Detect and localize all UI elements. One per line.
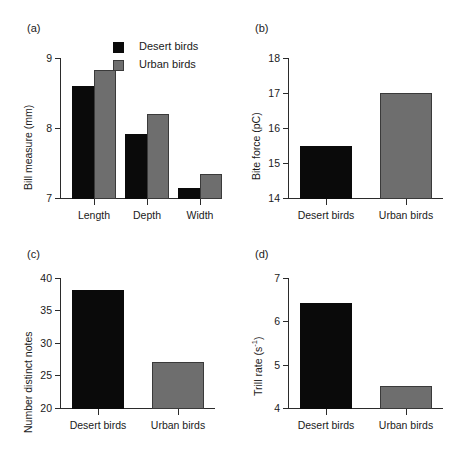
panel-c: (c) Number distinct notes 40 35 30 25 20… [0, 236, 227, 472]
panel-b: (b) Bite force (pC) 18 17 16 15 14 Deser… [228, 0, 455, 236]
panel-c-xtick-urban [178, 409, 179, 415]
legend-swatch-desert-icon [113, 42, 124, 53]
panel-b-bar-desert [300, 146, 352, 199]
panel-a-yticklabel-8: 8 [28, 122, 52, 134]
panel-b-y-axis [288, 58, 289, 199]
panel-c-bar-urban [152, 362, 204, 409]
panel-c-letter: (c) [27, 248, 40, 260]
panel-d-xticklabel-urban: Urban birds [366, 419, 446, 431]
panel-a-y-axis [60, 58, 61, 199]
panel-b-yticklabel-17: 17 [250, 87, 280, 99]
panel-d-yticklabel-6: 6 [256, 315, 280, 327]
panel-d-bar-urban [380, 386, 432, 409]
panel-c-ytick-20 [55, 408, 60, 409]
panel-c-yticklabel-40: 40 [22, 272, 52, 284]
panel-b-yticklabel-15: 15 [250, 157, 280, 169]
panel-b-ytick-16 [283, 128, 288, 129]
panel-c-xtick-desert [98, 409, 99, 415]
panel-b-yticklabel-14: 14 [250, 192, 280, 204]
panel-d-yticklabel-4: 4 [256, 402, 280, 414]
panel-b-ytick-17 [283, 93, 288, 94]
panel-a-bar-depth-urban [147, 114, 169, 199]
panel-d-xticklabel-desert: Desert birds [286, 419, 366, 431]
panel-d-ylabel-main: Trill rate (s [252, 347, 264, 396]
panel-c-ytick-30 [55, 343, 60, 344]
panel-a-xtick-length [94, 199, 95, 205]
panel-b-ytick-15 [283, 163, 288, 164]
panel-d-ytick-6 [283, 321, 288, 322]
panel-d-xtick-desert [326, 409, 327, 415]
panel-a-xticklabel-depth: Depth [117, 209, 177, 221]
panel-a-bar-depth-desert [125, 134, 147, 199]
figure-multipanel-bar-charts: (a) Bill measure (mm) 9 8 7 Length Depth… [0, 0, 455, 472]
panel-a-yticklabel-9: 9 [28, 52, 52, 64]
panel-b-xtick-desert [326, 199, 327, 205]
panel-d-ytick-4 [283, 408, 288, 409]
panel-c-xticklabel-desert: Desert birds [58, 419, 138, 431]
panel-d-ylabel-exponent: -1 [250, 340, 259, 347]
panel-a-xtick-width [200, 199, 201, 205]
panel-a-xtick-depth [147, 199, 148, 205]
panel-b-xtick-urban [406, 199, 407, 205]
panel-a-xticklabel-length: Length [64, 209, 124, 221]
panel-d-yticklabel-7: 7 [256, 272, 280, 284]
panel-a-bar-length-desert [72, 86, 94, 199]
panel-d-letter: (d) [255, 248, 268, 260]
legend-label-desert: Desert birds [139, 40, 198, 52]
panel-d-ytick-7 [283, 278, 288, 279]
panel-c-ytick-40 [55, 278, 60, 279]
panel-b-xticklabel-desert: Desert birds [286, 209, 366, 221]
panel-d-ylabel-tail: ) [252, 337, 264, 341]
panel-c-yticklabel-25: 25 [22, 369, 52, 381]
panel-c-y-axis [60, 278, 61, 409]
panel-a-bar-length-urban [94, 70, 116, 199]
panel-b-letter: (b) [255, 22, 268, 34]
panel-b-xticklabel-urban: Urban birds [366, 209, 446, 221]
panel-c-yticklabel-30: 30 [22, 337, 52, 349]
panel-d-ytick-5 [283, 365, 288, 366]
panel-a-yticklabel-7: 7 [28, 192, 52, 204]
panel-a-bar-width-desert [178, 188, 200, 199]
panel-a-ytick-7 [55, 198, 60, 199]
panel-b-yticklabel-18: 18 [250, 52, 280, 64]
panel-a-bar-width-urban [200, 174, 222, 199]
panel-a-ytick-9 [55, 58, 60, 59]
panel-a: (a) Bill measure (mm) 9 8 7 Length Depth… [0, 0, 227, 236]
panel-d-xtick-urban [406, 409, 407, 415]
panel-b-ytick-18 [283, 58, 288, 59]
panel-d-y-axis [288, 278, 289, 409]
panel-c-yticklabel-35: 35 [22, 304, 52, 316]
panel-c-bar-desert [72, 290, 124, 409]
panel-a-ylabel: Bill measure (mm) [22, 105, 34, 190]
panel-b-yticklabel-16: 16 [250, 122, 280, 134]
panel-a-ytick-8 [55, 128, 60, 129]
panel-c-ytick-35 [55, 310, 60, 311]
panel-c-ytick-25 [55, 375, 60, 376]
panel-c-xticklabel-urban: Urban birds [138, 419, 218, 431]
panel-b-bar-urban [380, 93, 432, 199]
legend-swatch-urban-icon [113, 60, 124, 71]
panel-a-letter: (a) [27, 22, 40, 34]
panel-c-yticklabel-20: 20 [22, 402, 52, 414]
panel-d-bar-desert [300, 303, 352, 409]
panel-d-yticklabel-5: 5 [256, 359, 280, 371]
legend-label-urban: Urban birds [139, 58, 196, 70]
panel-a-xticklabel-width: Width [170, 209, 230, 221]
panel-b-ytick-14 [283, 198, 288, 199]
panel-d: (d) Trill rate (s-1) 7 6 5 4 Desert bird… [228, 236, 455, 472]
